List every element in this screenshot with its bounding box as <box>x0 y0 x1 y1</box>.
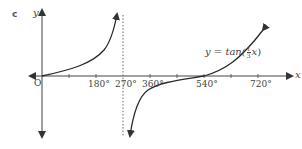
function-annotation: y = tan(13x) <box>205 46 261 59</box>
eq-suffix: ) <box>257 46 261 57</box>
graph-canvas <box>0 0 302 149</box>
tick-label-540: 540° <box>196 80 218 89</box>
eq-denominator: 3 <box>247 53 251 59</box>
y-axis-label: y <box>33 8 39 18</box>
x-axis-label: x <box>295 70 301 80</box>
tick-label-720: 720° <box>250 80 272 89</box>
eq-prefix: y = tan( <box>205 46 246 57</box>
tangent-graph: c y x O 180° 270° 360° 540° 720° y = tan… <box>0 0 302 149</box>
tick-label-360: 360° <box>142 80 164 89</box>
origin-label: O <box>34 79 41 88</box>
part-label: c <box>12 10 17 19</box>
curve-branch-1 <box>42 14 117 76</box>
tick-label-180: 180° <box>88 80 110 89</box>
tick-label-270: 270° <box>115 80 137 89</box>
eq-fraction: 13 <box>247 46 251 59</box>
